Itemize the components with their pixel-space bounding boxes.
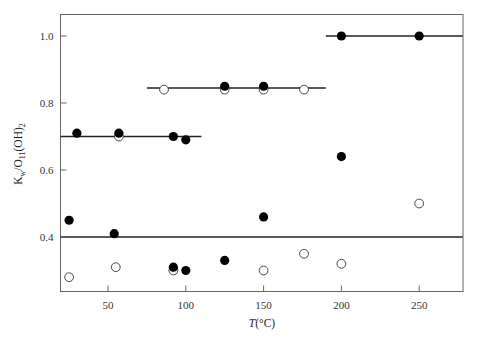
y-tick-label: 1.0 — [40, 30, 54, 42]
filled-circle-marker — [337, 31, 346, 40]
y-tick-label: 0.8 — [40, 97, 54, 109]
open-circle-marker — [111, 263, 120, 272]
open-circle-marker — [300, 249, 309, 258]
filled-circle-marker — [169, 132, 178, 141]
filled-circle-marker — [110, 229, 119, 238]
x-tick-label: 50 — [103, 299, 115, 311]
open-circle-marker — [300, 85, 309, 94]
y-tick-label: 0.4 — [40, 231, 54, 243]
y-tick-label: 0.6 — [40, 164, 54, 176]
filled-circle-marker — [259, 82, 268, 91]
open-circle-marker — [337, 259, 346, 268]
filled-circle-marker — [259, 212, 268, 221]
filled-circle-marker — [114, 129, 123, 138]
x-tick-label: 250 — [411, 299, 428, 311]
filled-circle-marker — [415, 31, 424, 40]
x-tick-label: 200 — [333, 299, 350, 311]
open-circle-marker — [259, 266, 268, 275]
x-tick-label: 150 — [255, 299, 272, 311]
x-axis-title: T(°C) — [249, 317, 276, 330]
x-axis-ticks: 50100150200250 — [103, 286, 428, 311]
filled-circle-marker — [337, 152, 346, 161]
data-markers — [65, 31, 424, 281]
filled-circle-marker — [65, 216, 74, 225]
filled-circle-marker — [169, 263, 178, 272]
filled-circle-marker — [72, 129, 81, 138]
filled-circle-marker — [181, 135, 190, 144]
chart: 50100150200250 0.40.60.81.0 T(°C) Kw/O11… — [0, 0, 482, 342]
open-circle-marker — [160, 85, 169, 94]
open-circle-marker — [65, 273, 74, 282]
plot-frame — [61, 15, 464, 292]
open-circle-marker — [415, 199, 424, 208]
y-axis-title: Kw/O11(OH)2 — [12, 123, 27, 185]
filled-circle-marker — [220, 256, 229, 265]
filled-circle-marker — [220, 82, 229, 91]
x-tick-label: 100 — [178, 299, 195, 311]
filled-circle-marker — [181, 266, 190, 275]
